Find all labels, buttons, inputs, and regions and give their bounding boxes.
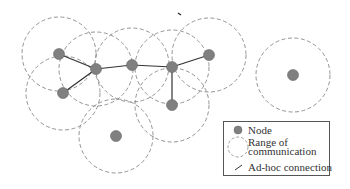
legend: Node Range of communication Ad-hoc conne…	[223, 121, 330, 176]
stray-mark	[178, 13, 181, 15]
node	[204, 50, 215, 61]
legend-node-label: Node	[248, 125, 272, 135]
node	[91, 64, 102, 75]
node-icon	[234, 126, 242, 134]
ad-hoc-link	[59, 54, 96, 69]
node	[288, 70, 299, 81]
node	[54, 49, 65, 60]
node	[127, 60, 138, 71]
node	[111, 131, 122, 142]
legend-range-label-2: communication	[248, 146, 316, 156]
legend-connection-label: Ad-hoc connection	[248, 162, 332, 172]
range-icon	[228, 137, 248, 157]
ad-hoc-link	[63, 69, 96, 93]
node	[167, 62, 178, 73]
ad-hoc-link	[172, 55, 209, 67]
ad-hoc-link	[132, 65, 172, 67]
ad-hoc-network-diagram: Node Range of communication Ad-hoc conne…	[0, 0, 350, 189]
node	[167, 100, 178, 111]
node	[58, 88, 69, 99]
connection-icon	[235, 165, 242, 170]
